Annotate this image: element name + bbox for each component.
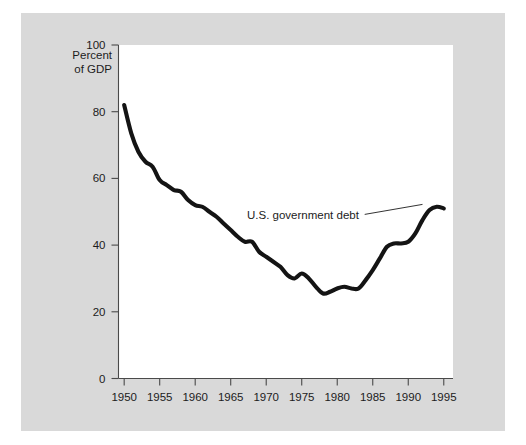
x-tick-label: 1960 xyxy=(182,391,208,403)
y-tick-label: 20 xyxy=(93,306,106,318)
x-tick-label: 1995 xyxy=(431,391,457,403)
line-chart: 020406080100 195019551960196519701975198… xyxy=(0,0,526,445)
y-tick-labels: 020406080100 xyxy=(86,39,105,385)
annotation-group: U.S. government debt xyxy=(247,204,423,221)
y-axis-title-line1: Percent xyxy=(72,49,112,61)
y-tick-label: 60 xyxy=(93,172,106,184)
x-tick-label: 1980 xyxy=(324,391,350,403)
x-tick-labels: 1950195519601965197019751980198519901995 xyxy=(111,391,456,403)
y-axis-group: 020406080100 xyxy=(86,39,118,385)
x-axis-group: 1950195519601965197019751980198519901995 xyxy=(111,379,456,403)
annotation-leader-line xyxy=(365,204,423,214)
x-tick-label: 1985 xyxy=(360,391,386,403)
chart-screenshot: 020406080100 195019551960196519701975198… xyxy=(0,0,526,445)
x-tick-label: 1990 xyxy=(395,391,421,403)
y-tick-label: 80 xyxy=(93,106,106,118)
x-tick-label: 1955 xyxy=(147,391,173,403)
debt-series-line xyxy=(124,105,444,294)
y-tick-label: 0 xyxy=(99,373,105,385)
y-tick-label: 40 xyxy=(93,239,106,251)
x-tick-marks xyxy=(124,379,444,386)
axis-title-group: Percent of GDP xyxy=(72,49,112,75)
x-tick-label: 1950 xyxy=(111,391,137,403)
annotation-label: U.S. government debt xyxy=(247,209,360,221)
x-tick-label: 1975 xyxy=(289,391,315,403)
y-axis-title-line2: of GDP xyxy=(74,63,112,75)
y-tick-marks xyxy=(112,45,119,379)
x-tick-label: 1970 xyxy=(253,391,279,403)
x-tick-label: 1965 xyxy=(218,391,244,403)
